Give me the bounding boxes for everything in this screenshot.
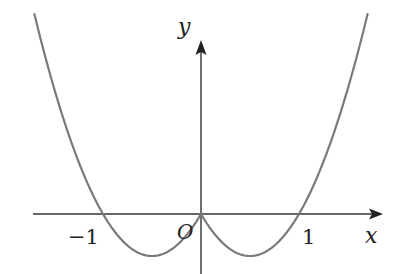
tick-label-1: 1 (302, 225, 315, 249)
x-axis-label: x (365, 223, 378, 248)
function-graph: y x O −1 1 (0, 0, 406, 274)
tick-label-neg-1: −1 (68, 225, 99, 249)
y-axis-label: y (177, 14, 191, 39)
origin-label: O (177, 220, 193, 244)
